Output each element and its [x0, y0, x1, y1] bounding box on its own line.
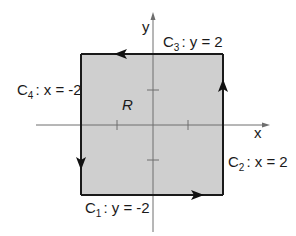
x-axis-arrow-icon [262, 123, 270, 128]
c3-label: C3: y = 2 [163, 33, 223, 53]
region-diagram: y x R C3: y = 2 C4: x = -2 C2: x = 2 C1:… [0, 0, 296, 236]
y-axis-label: y [142, 18, 150, 35]
c4-label: C4: x = -2 [17, 81, 82, 101]
diagram-canvas: y x R C3: y = 2 C4: x = -2 C2: x = 2 C1:… [0, 0, 296, 236]
y-axis-arrow-icon [151, 12, 156, 20]
c1-label: C1: y = -2 [85, 199, 150, 219]
c2-label: C2: x = 2 [228, 153, 288, 173]
region-label: R [122, 96, 133, 113]
x-axis-label: x [254, 124, 262, 141]
